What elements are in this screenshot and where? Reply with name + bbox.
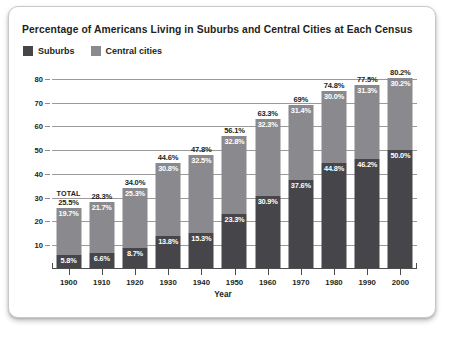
- bar-segment-suburbs[interactable]: 30.9%: [255, 196, 280, 269]
- bar-group[interactable]: 32.8%23.3%56.1%: [218, 67, 251, 269]
- y-axis-tick-mark: [45, 79, 50, 80]
- page-title: Percentage of Americans Living in Suburb…: [22, 24, 413, 35]
- bar-group[interactable]: 30.8%13.8%44.6%: [152, 67, 185, 269]
- bar-stack[interactable]: 30.2%50.0%80.2%: [388, 78, 413, 269]
- bar-stack[interactable]: 32.3%30.9%63.3%: [255, 119, 280, 269]
- y-axis-tick-label: 80: [21, 74, 43, 83]
- y-axis-tick-label: 40: [21, 169, 43, 178]
- bar-stack[interactable]: 30.8%13.8%44.6%: [156, 163, 181, 269]
- bar-segment-suburbs[interactable]: 5.8%: [56, 255, 81, 269]
- legend-swatch-central-cities: [91, 46, 101, 56]
- chart-legend: Suburbs Central cities: [23, 46, 162, 56]
- x-axis-tick-mark: [235, 269, 236, 275]
- bar-group[interactable]: 32.3%30.9%63.3%: [251, 67, 284, 269]
- x-axis-tick-mark: [334, 269, 335, 275]
- bar-value-label: 6.6%: [89, 254, 114, 263]
- bar-value-label: 32.8%: [222, 137, 247, 146]
- bar-segment-suburbs[interactable]: 13.8%: [156, 236, 181, 269]
- bar-stack[interactable]: 32.8%23.3%56.1%: [222, 136, 247, 269]
- bar-segment-central-cities[interactable]: 30.8%: [156, 163, 181, 236]
- y-axis-tick-mark: [45, 245, 50, 246]
- bar-series-container: 19.7%5.8%25.5%TOTAL21.7%6.6%28.3%25.3%8.…: [52, 67, 417, 269]
- bar-value-label: 23.3%: [222, 215, 247, 224]
- bar-stack[interactable]: 30.0%44.8%74.8%: [322, 91, 347, 269]
- y-axis-tick-mark: [45, 174, 50, 175]
- bar-value-label: 25.3%: [122, 189, 147, 198]
- bar-value-label: 13.8%: [156, 237, 181, 246]
- y-axis-tick-label: 50: [21, 146, 43, 155]
- bar-stack[interactable]: 25.3%8.7%34.0%: [122, 188, 147, 269]
- bar-segment-central-cities[interactable]: 30.0%: [322, 91, 347, 162]
- bar-group[interactable]: 30.0%44.8%74.8%: [317, 67, 350, 269]
- chart-card: Percentage of Americans Living in Suburb…: [8, 6, 436, 318]
- bar-value-label: 30.8%: [156, 164, 181, 173]
- x-axis-tick-mark: [301, 269, 302, 275]
- bar-segment-central-cities[interactable]: 21.7%: [89, 202, 114, 254]
- bar-segment-suburbs[interactable]: 8.7%: [122, 248, 147, 269]
- bar-segment-central-cities[interactable]: 32.5%: [189, 155, 214, 232]
- bar-value-label: 19.7%: [56, 209, 81, 218]
- bar-segment-central-cities[interactable]: 31.3%: [355, 85, 380, 159]
- bar-segment-central-cities[interactable]: 25.3%: [122, 188, 147, 248]
- legend-label-central-cities: Central cities: [106, 46, 163, 56]
- bar-total-label: 25.5%: [50, 198, 87, 207]
- bar-stack[interactable]: 19.7%5.8%25.5%TOTAL: [56, 208, 81, 269]
- bar-value-label: 5.8%: [56, 256, 81, 265]
- bar-group[interactable]: 32.5%15.3%47.8%: [185, 67, 218, 269]
- bar-group[interactable]: 30.2%50.0%80.2%: [384, 67, 417, 269]
- bar-segment-suburbs[interactable]: 15.3%: [189, 233, 214, 269]
- bar-segment-central-cities[interactable]: 32.8%: [222, 136, 247, 214]
- bar-stack[interactable]: 31.4%37.6%69%: [288, 105, 313, 269]
- bar-stack[interactable]: 31.3%46.2%77.5%: [355, 85, 380, 269]
- bar-value-label: 8.7%: [122, 249, 147, 258]
- legend-item-suburbs: Suburbs: [23, 46, 75, 56]
- x-axis-tick-mark: [168, 269, 169, 275]
- y-axis-tick-label: 60: [21, 122, 43, 131]
- y-axis-tick-mark: [45, 103, 50, 104]
- legend-label-suburbs: Suburbs: [38, 46, 75, 56]
- bar-total-label: 44.6%: [150, 153, 187, 162]
- bar-stack[interactable]: 32.5%15.3%47.8%: [189, 155, 214, 269]
- bar-segment-central-cities[interactable]: 19.7%: [56, 208, 81, 255]
- bar-segment-suburbs[interactable]: 6.6%: [89, 253, 114, 269]
- bar-group[interactable]: 21.7%6.6%28.3%: [85, 67, 118, 269]
- x-axis-title: Year: [21, 290, 425, 299]
- x-axis-left-cap: [52, 263, 53, 269]
- bar-segment-central-cities[interactable]: 31.4%: [288, 105, 313, 180]
- bar-value-label: 44.8%: [322, 164, 347, 173]
- bar-group[interactable]: 31.4%37.6%69%: [284, 67, 317, 269]
- bar-segment-suburbs[interactable]: 37.6%: [288, 180, 313, 269]
- bar-stack[interactable]: 21.7%6.6%28.3%: [89, 202, 114, 269]
- x-axis-tick-mark: [69, 269, 70, 275]
- bar-segment-suburbs[interactable]: 23.3%: [222, 214, 247, 269]
- bar-value-label: 31.3%: [355, 86, 380, 95]
- y-axis-tick-label: 70: [21, 98, 43, 107]
- x-axis-tick-mark: [268, 269, 269, 275]
- y-axis-tick-mark: [45, 126, 50, 127]
- bar-value-label: 21.7%: [89, 203, 114, 212]
- bar-total-label: 77.5%: [349, 75, 386, 84]
- bar-group[interactable]: 19.7%5.8%25.5%TOTAL: [52, 67, 85, 269]
- bar-value-label: 37.6%: [288, 181, 313, 190]
- x-axis-tick-mark: [201, 269, 202, 275]
- total-annotation-label: TOTAL: [50, 189, 87, 198]
- bar-total-label: 63.3%: [249, 109, 286, 118]
- bar-value-label: 31.4%: [288, 106, 313, 115]
- bar-value-label: 50.0%: [388, 151, 413, 160]
- legend-swatch-suburbs: [23, 46, 33, 56]
- y-axis-tick-label: 10: [21, 241, 43, 250]
- bar-segment-suburbs[interactable]: 46.2%: [355, 159, 380, 269]
- bar-segment-suburbs[interactable]: 44.8%: [322, 163, 347, 269]
- bar-group[interactable]: 25.3%8.7%34.0%: [118, 67, 151, 269]
- bar-segment-suburbs[interactable]: 50.0%: [388, 150, 413, 269]
- bar-segment-central-cities[interactable]: 32.3%: [255, 119, 280, 196]
- bar-group[interactable]: 31.3%46.2%77.5%: [351, 67, 384, 269]
- bar-total-label: 34.0%: [116, 178, 153, 187]
- y-axis-tick-label: 30: [21, 193, 43, 202]
- bar-value-label: 30.0%: [322, 92, 347, 101]
- bar-total-label: 47.8%: [183, 145, 220, 154]
- y-axis-tick-mark: [45, 150, 50, 151]
- bar-value-label: 32.5%: [189, 156, 214, 165]
- bar-segment-central-cities[interactable]: 30.2%: [388, 78, 413, 150]
- x-axis-tick-label: 2000: [380, 278, 420, 287]
